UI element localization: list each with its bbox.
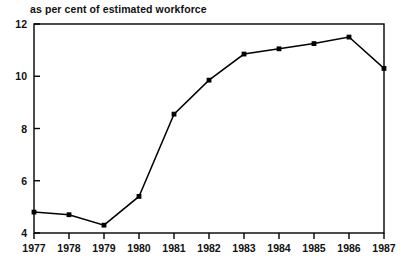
- x-tick-label: 1984: [267, 242, 290, 254]
- y-axis-ticks: [34, 24, 40, 233]
- y-tick-label: 10: [0, 70, 27, 82]
- y-tick-label: 6: [0, 175, 27, 187]
- x-axis-ticks: [34, 233, 384, 239]
- data-point-marker: [242, 52, 247, 57]
- x-tick-label: 1980: [127, 242, 150, 254]
- y-tick-label: 4: [0, 227, 27, 239]
- data-point-marker: [137, 194, 142, 199]
- data-point-marker: [207, 78, 212, 83]
- x-tick-label: 1987: [372, 242, 395, 254]
- x-tick-label: 1978: [57, 242, 80, 254]
- x-tick-label: 1977: [22, 242, 45, 254]
- y-tick-label: 8: [0, 123, 27, 135]
- x-tick-label: 1982: [197, 242, 220, 254]
- data-point-marker: [382, 66, 387, 71]
- data-point-marker: [277, 46, 282, 51]
- data-markers: [32, 35, 387, 228]
- x-tick-label: 1986: [337, 242, 360, 254]
- x-tick-label: 1981: [162, 242, 185, 254]
- data-point-marker: [32, 210, 37, 215]
- x-tick-label: 1979: [92, 242, 115, 254]
- data-point-marker: [67, 212, 72, 217]
- data-point-marker: [102, 223, 107, 228]
- chart-figure: as per cent of estimated workforce 46810…: [0, 0, 407, 267]
- data-line: [34, 37, 384, 225]
- data-point-marker: [312, 41, 317, 46]
- x-tick-label: 1985: [302, 242, 325, 254]
- line-chart-plot: [0, 0, 407, 267]
- x-tick-label: 1983: [232, 242, 255, 254]
- y-tick-label: 12: [0, 18, 27, 30]
- data-point-marker: [172, 112, 177, 117]
- plot-frame: [34, 24, 384, 233]
- data-point-marker: [347, 35, 352, 40]
